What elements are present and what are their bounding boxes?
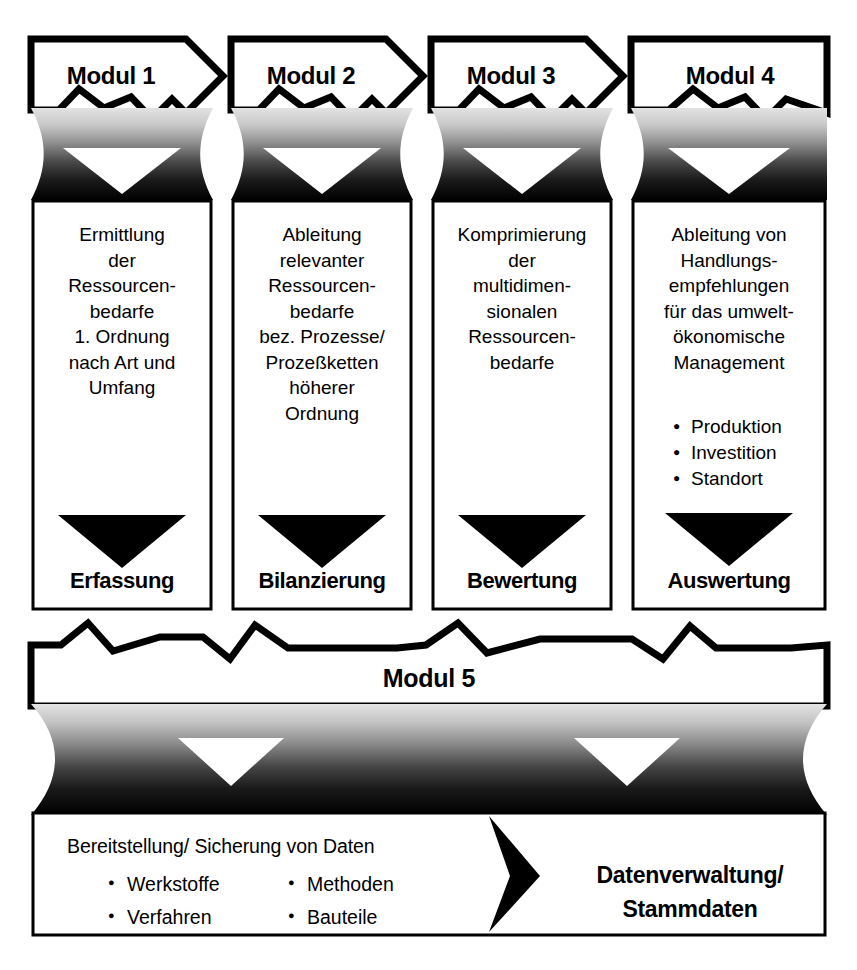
module-bullet-item: Investition — [673, 440, 782, 466]
module-footer-label-4: Auswertung — [633, 570, 825, 592]
module-bullet-item: Produktion — [673, 414, 782, 440]
module-header-label-2: Modul 2 — [231, 64, 391, 88]
module5-result-label: Datenverwaltung/ Stammdaten — [560, 858, 820, 926]
module-header-label-4: Modul 4 — [640, 64, 820, 88]
module-body-text-1: Ermittlung der Ressourcen- bedarfe 1. Or… — [33, 222, 211, 401]
data-bullet-item: Werkstoffe — [108, 868, 219, 901]
data-bullet-item: Methoden — [288, 868, 394, 901]
module5-data-heading: Bereitstellung/ Sicherung von Daten — [67, 835, 375, 858]
module-header-label-1: Modul 1 — [31, 64, 191, 88]
module-footer-label-2: Bilanzierung — [233, 570, 411, 592]
module5-bullets-left: WerkstoffeVerfahren — [108, 868, 219, 934]
data-bullet-item: Verfahren — [108, 901, 219, 934]
module-footer-label-3: Bewertung — [433, 570, 611, 592]
module-body-text-2: Ableitung relevanter Ressourcen- bedarfe… — [233, 222, 411, 426]
module5-funnel — [31, 704, 827, 815]
module-header-label-3: Modul 3 — [431, 64, 591, 88]
module-body-text-4: Ableitung von Handlungs- empfehlungen fü… — [633, 222, 825, 375]
diagram-canvas: Modul 1 Modul 2 Modul 3 Modul 4 Ermittlu… — [0, 0, 857, 970]
module-funnels — [31, 108, 827, 200]
module-body-text-3: Komprimierung der multidimen- sionalen R… — [433, 222, 611, 375]
module5-bullets-right: MethodenBauteile — [288, 868, 394, 934]
module5-header-label: Modul 5 — [33, 664, 825, 693]
module-bullet-item: Standort — [673, 466, 782, 492]
data-bullet-item: Bauteile — [288, 901, 394, 934]
module-footer-label-1: Erfassung — [33, 570, 211, 592]
module-body-bullets-4: ProduktionInvestitionStandort — [673, 414, 782, 492]
